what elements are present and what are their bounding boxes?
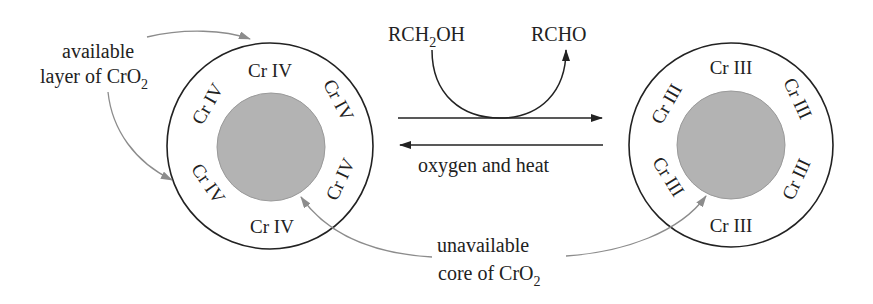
left-particle: Cr IV Cr IV Cr IV Cr IV Cr IV Cr IV	[167, 43, 373, 249]
left-layer-label: Cr IV	[250, 216, 294, 237]
available-label-line2: layer of CrO2	[40, 65, 148, 92]
left-layer-label: Cr IV	[248, 60, 292, 81]
available-pointer-bottom	[108, 92, 172, 180]
reactant-label: RCH2OH	[388, 23, 465, 50]
unavailable-label-line1: unavailable	[437, 234, 529, 256]
right-layer-label: Cr III	[710, 215, 753, 236]
left-core	[217, 93, 325, 201]
right-core	[677, 91, 785, 199]
unavailable-core-annotation: unavailable core of CrO2	[301, 196, 706, 289]
reverse-condition-label: oxygen and heat	[418, 154, 550, 177]
available-label-line1: available	[62, 40, 134, 62]
right-particle: Cr III Cr III Cr III Cr III Cr III Cr II…	[629, 43, 833, 247]
substrate-arc	[432, 50, 566, 118]
product-label: RCHO	[531, 23, 587, 45]
unavailable-label-line2: core of CrO2	[438, 262, 541, 289]
right-layer-label: Cr III	[710, 57, 753, 78]
available-pointer-top	[147, 31, 250, 39]
diagram-canvas: Cr IV Cr IV Cr IV Cr IV Cr IV Cr IV Cr I…	[0, 0, 873, 304]
reaction: RCH2OH RCHO oxygen and heat	[388, 23, 603, 177]
